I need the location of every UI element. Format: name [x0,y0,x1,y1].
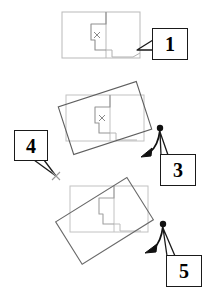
diagram-canvas: 1 3 4 5 [0,0,211,294]
callout-box-4[interactable]: 4 [14,130,48,161]
callout-box-1[interactable]: 1 [152,28,188,60]
rotation-arrowhead-middle [141,148,152,157]
rotation-arrowhead-bottom [145,244,157,253]
callout-label-3: 3 [173,160,183,180]
rotation-handle-bottom[interactable] [145,221,166,253]
callout-label-4: 4 [26,136,36,156]
callout-box-3[interactable]: 3 [160,154,196,186]
callout-label-1: 1 [165,34,175,54]
callout-4-tail [34,160,56,176]
target-cross-icon [52,172,60,180]
callout-label-5: 5 [179,261,189,281]
callout-3-tail [160,132,168,155]
callout-1-tail [137,40,153,50]
callout-5-tail [163,228,175,256]
callout-box-5[interactable]: 5 [166,255,202,287]
